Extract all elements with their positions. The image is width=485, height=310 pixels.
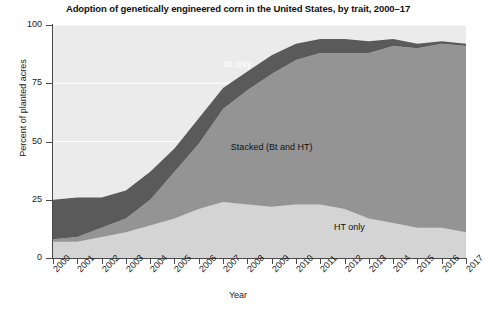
y-axis-tick <box>46 25 52 26</box>
series-label-stacked: Stacked (Bt and HT) <box>231 142 313 152</box>
y-axis-title: Percent of planted acres <box>18 33 28 183</box>
series-label-bt-only: Bt only <box>224 59 252 69</box>
x-axis-tick-label: 2017 <box>464 253 485 274</box>
y-axis-tick <box>46 258 52 259</box>
y-axis-tick <box>46 83 52 84</box>
chart-title: Adoption of genetically engineered corn … <box>0 3 476 14</box>
y-axis-tick <box>46 200 52 201</box>
y-axis-line <box>52 24 53 259</box>
y-axis-tick-label: 0 <box>0 252 42 262</box>
series-label-ht-only: HT only <box>334 222 365 232</box>
x-axis-title: Year <box>0 290 476 300</box>
y-axis-tick-label: 25 <box>0 194 42 204</box>
y-axis-tick <box>46 142 52 143</box>
y-axis-tick-label: 100 <box>0 19 42 29</box>
